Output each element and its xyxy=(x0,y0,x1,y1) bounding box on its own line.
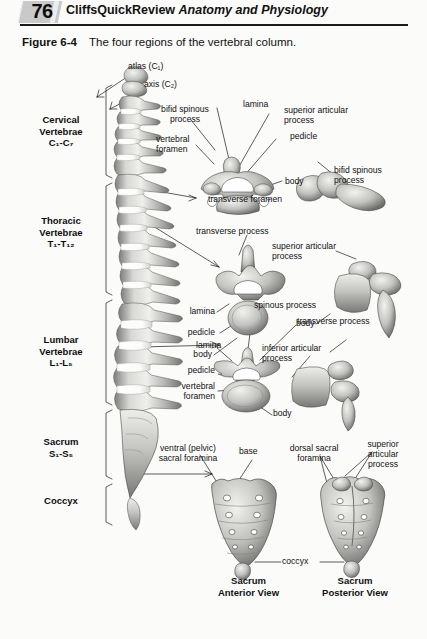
page-header: 76 CliffsQuickReview Anatomy and Physiol… xyxy=(0,0,427,26)
bracket-lumbar xyxy=(106,300,112,405)
running-head-title: CliffsQuickReview Anatomy and Physiology xyxy=(66,3,328,17)
callout-thoracic-inferior-articular-process: inferior articular process xyxy=(262,344,321,364)
vertebral-column-figure: Cervical Vertebrae C₁-C₇ Thoracic Verteb… xyxy=(0,52,427,639)
region-label-thoracic: Thoracic Vertebrae T₁-T₁₂ xyxy=(22,215,100,250)
callout-sacrum-superior-articular-process: superior articular process xyxy=(358,440,408,469)
figure-caption: Figure 6-4 The four regions of the verte… xyxy=(22,36,296,48)
callout-axis: axis (C₂) xyxy=(144,80,177,90)
cervical-vertebra-superior-detail xyxy=(201,157,274,215)
callout-cervical-bifid-spinous-process: bifid spinous process xyxy=(156,105,214,125)
bracket-coccyx xyxy=(106,484,112,525)
header-rule xyxy=(20,24,408,26)
callout-cervical-vertebral-foramen: vertebral foramen xyxy=(156,135,189,155)
callout-sacrum-base: base xyxy=(239,447,258,457)
callout-transverse-foramen: transverse foramen xyxy=(208,195,282,205)
bracket-cervical xyxy=(106,85,112,178)
callout-thoracic-lamina: lamina xyxy=(165,307,215,317)
callout-dorsal-sacral-foramina: dorsal sacral foramina xyxy=(281,444,347,464)
callout-lumbar-transverse-process: transverse process xyxy=(297,317,370,327)
callout-cervical-lateral-bifid-spinous-process: bifid spinous process xyxy=(334,166,382,186)
callout-cervical-superior-articular-process: superior articular process xyxy=(284,106,348,126)
region-label-cervical: Cervical Vertebrae C₁-C₇ xyxy=(22,114,100,149)
page-number: 76 xyxy=(22,0,62,23)
bracket-sacrum xyxy=(106,410,112,479)
region-label-lumbar: Lumbar Vertebrae L₁-L₅ xyxy=(22,334,100,369)
region-label-coccyx: Coccyx xyxy=(22,495,100,507)
callout-atlas: atlas (C₁) xyxy=(128,62,163,72)
callout-cervical-pedicle: pedicle xyxy=(290,132,317,142)
book-title: Anatomy and Physiology xyxy=(179,3,328,17)
series-title: CliffsQuickReview xyxy=(66,3,175,17)
callout-coccyx: coccyx xyxy=(282,557,308,567)
callout-lumbar-lamina: lamina xyxy=(196,341,221,351)
callout-cervical-body: body xyxy=(285,177,304,187)
callout-thoracic-superior-articular-process: superior articular process xyxy=(272,242,336,262)
callout-ventral-sacral-foramina: ventral (pelvic) sacral foramina xyxy=(152,444,224,464)
figure-caption-text: The four regions of the vertebral column… xyxy=(89,36,296,48)
callout-lumbar-spinous-process: spinous process xyxy=(254,301,316,311)
sacrum-anterior-view xyxy=(212,479,277,580)
callout-lumbar-pedicle: pedicle xyxy=(163,366,215,376)
bracket-thoracic xyxy=(106,183,112,295)
lumbar-vertebra-lateral-detail xyxy=(292,361,360,431)
view-label-sacrum-anterior: Sacrum Anterior View xyxy=(196,575,301,598)
callout-thoracic-transverse-process: transverse process xyxy=(196,227,269,237)
callout-thoracic-body: body xyxy=(165,350,212,360)
region-label-sacrum: Sacrum S₁-S₅ xyxy=(22,436,100,459)
callout-lumbar-body: body xyxy=(273,409,292,419)
view-label-sacrum-posterior: Sacrum Posterior View xyxy=(301,575,409,598)
figure-label: Figure 6-4 xyxy=(22,36,77,48)
callout-lumbar-vertebral-foramen: vertebral foramen xyxy=(160,382,215,402)
callout-cervical-lamina: lamina xyxy=(243,100,268,110)
callout-thoracic-pedicle: pedicle xyxy=(165,328,215,338)
